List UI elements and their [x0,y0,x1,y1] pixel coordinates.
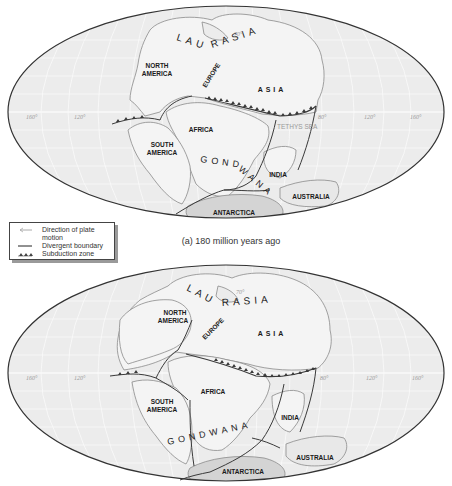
label-south-america: AMERICA [147,406,178,413]
label-south-america: SOUTH [151,141,174,148]
label-north-america: AMERICA [142,70,173,77]
subduction-triangles-icon [16,250,34,258]
label-india: INDIA [281,414,299,421]
graticule-label: 80° [318,114,327,120]
label-australia: AUSTRALIA [296,454,334,461]
label-australia: AUSTRALIA [292,193,330,200]
label-antarctica: ANTARCTICA [213,209,255,216]
graticule-label: 70° [236,289,245,295]
label-antarctica: ANTARCTICA [222,468,264,475]
graticule-label: 120° [74,375,86,381]
australia-landmass [286,436,347,466]
graticule-label: 70° [234,31,243,37]
label-india: INDIA [269,171,287,178]
graticule-label: 120° [366,375,378,381]
graticule-label: 160° [410,114,422,120]
legend-label: Direction of plate [42,226,95,233]
legend-item-subduction: Subduction zone [16,250,94,258]
label-north-america: AMERICA [158,317,189,324]
map-180-million-years: LAU RASIA NORTH AMERICA EUROPE ASIA AFRI… [0,0,452,225]
label-africa: AFRICA [201,388,226,395]
caption-a: (a) 180 million years ago [0,236,452,246]
label-asia: ASIA [258,86,287,93]
graticule-label: 80° [320,375,329,381]
graticule-label: 160° [26,375,38,381]
arrow-icon [16,226,34,234]
graticule-label: 160° [26,114,38,120]
graticule-label: 120° [364,114,376,120]
label-north-america: NORTH [145,62,168,69]
map-present-stage-b: LAU RASIA NORTH AMERICA EUROPE ASIA AFRI… [0,260,452,486]
legend-label: Subduction zone [42,250,94,258]
label-north-america: NORTH [163,309,186,316]
label-south-america: AMERICA [147,149,178,156]
graticule-label: 160° [412,375,424,381]
label-africa: AFRICA [189,126,214,133]
graticule-label: 120° [74,114,86,120]
label-asia: ASIA [258,330,287,337]
label-south-america: SOUTH [151,398,174,405]
label-tethys-sea: TETHYS SEA [277,123,318,130]
